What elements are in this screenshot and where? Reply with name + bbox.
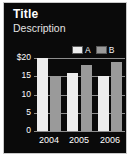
x-axis-tick-label: 2004 [34,135,64,145]
bar-a-2006 [98,76,109,131]
bar-a-2004 [37,58,48,131]
x-axis-tick-label: 2005 [64,135,94,145]
bar-b-2005 [81,65,92,131]
chart-widget: Title Description A B 051015$20 20042005… [3,2,127,154]
bars-layer: 200420052006 [4,3,127,154]
bar-b-2006 [111,62,122,131]
plot-area: 051015$20 200420052006 [4,3,127,154]
x-axis-tick-label: 2006 [95,135,125,145]
bar-b-2004 [50,76,61,131]
bar-a-2005 [67,73,78,131]
